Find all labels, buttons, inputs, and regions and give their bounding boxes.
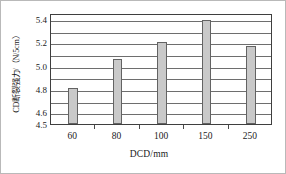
plot-area: [50, 14, 272, 125]
x-axis-title: DCD/mm: [1, 149, 285, 159]
y-axis-tick-label: 5.4: [23, 15, 47, 24]
bar: [68, 88, 78, 124]
x-axis-title-text: DCD/mm: [130, 149, 169, 159]
x-axis-tick: [139, 125, 140, 129]
bar: [246, 46, 256, 124]
x-axis-tick: [228, 125, 229, 129]
x-axis-tick: [183, 125, 184, 129]
y-axis-tick-label: 4.8: [23, 85, 47, 94]
y-axis-tick-label: 5.2: [23, 39, 47, 48]
bar: [202, 20, 212, 124]
x-axis-tick-label: 100: [141, 130, 181, 142]
y-axis-tick-label: 5.0: [23, 62, 47, 71]
x-axis-tick-label: 150: [185, 130, 225, 142]
x-axis-tick-labels: 6080100150250: [50, 130, 272, 144]
bar: [113, 59, 123, 124]
gridline: [51, 33, 271, 34]
y-axis-tick-label: 4.5: [23, 121, 47, 130]
x-axis-tick: [94, 125, 95, 129]
y-axis-title-text: CD断裂强力/（N/5cm）: [14, 31, 22, 112]
chart-figure: CD断裂强力/（N/5cm） 4.54.64.85.05.25.4 608010…: [0, 0, 286, 174]
y-axis-tick-label: 4.6: [23, 109, 47, 118]
x-axis-tick-label: 80: [97, 130, 137, 142]
x-axis-tick-label: 250: [230, 130, 270, 142]
bar: [157, 42, 167, 124]
x-axis-tick-label: 60: [52, 130, 92, 142]
gridline: [51, 21, 271, 22]
